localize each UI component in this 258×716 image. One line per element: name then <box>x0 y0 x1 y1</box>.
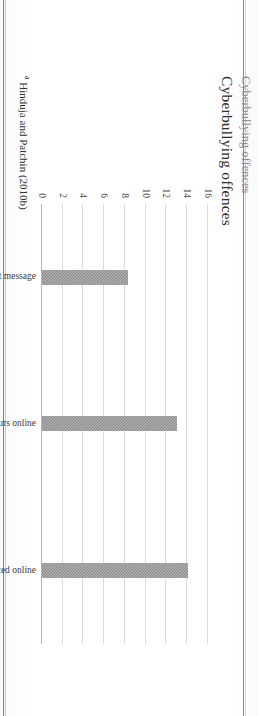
bar-series: threats via text messagerumours onlineme… <box>42 204 208 644</box>
bar <box>42 563 188 578</box>
footnote-text: Hinduja and Patchin (2010b) <box>18 82 30 209</box>
category-label: threats via text message <box>0 273 36 283</box>
footnote-marker: a <box>23 76 32 80</box>
bar <box>42 270 128 285</box>
category-label: rumours online <box>0 419 36 429</box>
y-tick-label: 14 <box>182 189 192 199</box>
scanned-page: Cyberbullying offences Cyberbullying off… <box>0 0 258 716</box>
page-border-left-rule-faint <box>5 0 6 716</box>
y-tick-label: 16 <box>203 189 213 199</box>
bar-slot: threats via text message <box>42 204 208 351</box>
page-border-left-rule <box>3 0 4 716</box>
category-label: mean or hurtful comments posted online <box>0 566 36 576</box>
figure-footnote: a Hinduja and Patchin (2010b) <box>18 76 32 210</box>
y-tick-label: 10 <box>141 189 151 199</box>
bar-slot: mean or hurtful comments posted online <box>42 497 208 644</box>
y-tick-label: 4 <box>79 193 89 198</box>
figure: Cyberbullying offences Cyberbullying off… <box>16 28 242 688</box>
y-tick-label: 0 <box>37 193 47 198</box>
plot-area: 0246810121416 threats via text messageru… <box>42 204 208 644</box>
chart-title: Cyberbullying offences <box>218 76 236 226</box>
y-tick-label: 8 <box>120 193 130 198</box>
y-tick-label: 2 <box>58 193 68 198</box>
bar <box>42 416 177 431</box>
figure-supertitle-clipped: Cyberbullying offences <box>238 76 253 193</box>
bar-slot: rumours online <box>42 351 208 498</box>
rotated-figure-container: Cyberbullying offences Cyberbullying off… <box>16 28 242 688</box>
y-tick-label: 6 <box>99 193 109 198</box>
y-tick-label: 12 <box>162 189 172 199</box>
